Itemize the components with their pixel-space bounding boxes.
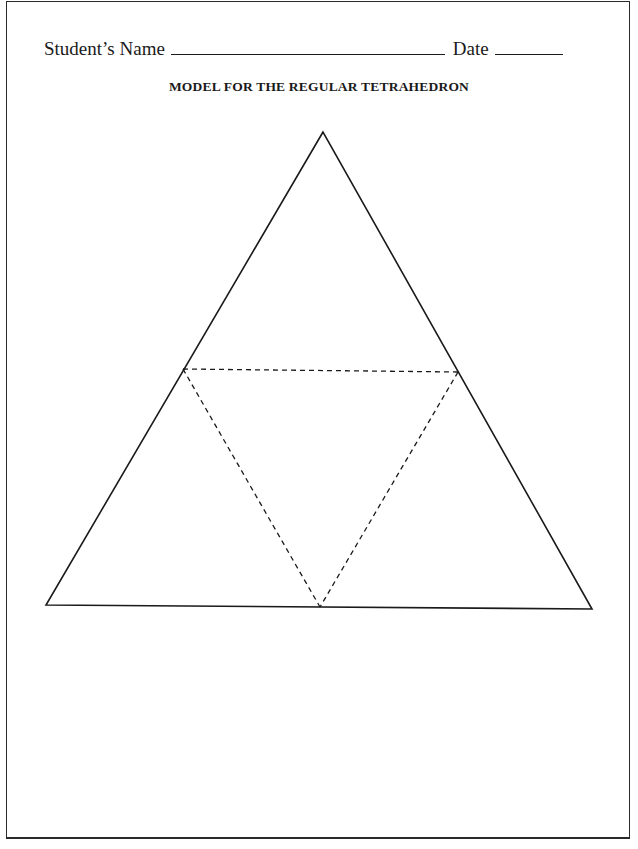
tetrahedron-net (0, 0, 638, 849)
fold-line-right (320, 372, 458, 607)
fold-line-top (183, 369, 458, 372)
fold-line-left (183, 369, 320, 607)
